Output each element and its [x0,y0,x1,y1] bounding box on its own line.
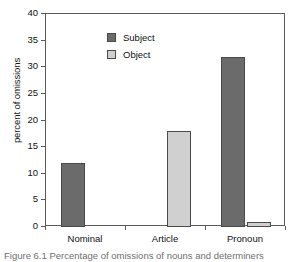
y-tick-5: 5 [0,199,45,200]
bar-pronoun-subject [221,57,245,227]
legend-swatch-subject-icon [107,33,116,42]
x-axis-label-nominal: Nominal [45,232,125,245]
y-tick-label: 0 [33,219,38,232]
y-tick-label: 5 [33,192,38,205]
x-tick-mark [285,226,286,230]
y-tick-10: 10 [0,173,45,174]
y-tick-label: 25 [27,86,38,99]
y-tick-label: 30 [27,59,38,72]
bar-pronoun-object [247,222,271,227]
y-tick-label: 20 [27,113,38,126]
y-tick-30: 30 [0,66,45,67]
y-tick-25: 25 [0,93,45,94]
x-tick-mark [45,226,46,230]
y-tick-0: 0 [0,226,45,227]
y-tick-40: 40 [0,13,45,14]
chart-legend: Subject Object [107,30,155,64]
x-tick-mark [205,226,206,230]
legend-swatch-object-icon [107,50,116,59]
x-axis-label-pronoun: Pronoun [205,232,285,245]
figure-caption: Figure 6.1 Percentage of omissions of no… [4,249,297,262]
y-tick-20: 20 [0,120,45,121]
y-tick-15: 15 [0,146,45,147]
x-axis-label-article: Article [125,232,205,245]
legend-label-object: Object [123,49,150,60]
y-tick-label: 15 [27,139,38,152]
x-tick-mark [125,226,126,230]
bar-nominal-subject [61,163,85,227]
y-tick-label: 40 [27,6,38,19]
bar-article-object [167,131,191,227]
y-tick-label: 10 [27,166,38,179]
y-axis-title: percent of omissions [11,11,22,191]
legend-item-subject: Subject [107,30,155,44]
y-tick-label: 35 [27,33,38,46]
y-tick-35: 35 [0,40,45,41]
legend-label-subject: Subject [123,32,155,43]
legend-item-object: Object [107,47,155,61]
plot-area: Subject Object [45,13,285,226]
